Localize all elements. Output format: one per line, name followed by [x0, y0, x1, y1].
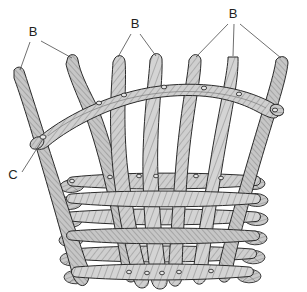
binding-node	[127, 270, 132, 274]
binding-node	[161, 85, 166, 89]
weaver-rod	[67, 191, 261, 207]
binding-node	[145, 271, 150, 275]
label-b-center: B	[131, 16, 140, 31]
binding-node	[121, 93, 126, 97]
binding-node	[219, 176, 224, 180]
label-b-left: B	[29, 24, 38, 39]
basket-diagram: B B B C	[0, 0, 307, 292]
binding-node	[154, 174, 159, 178]
binding-node	[160, 271, 165, 275]
binding-node	[272, 108, 277, 112]
binding-node	[137, 174, 142, 178]
horizontal-weavers-front	[67, 191, 261, 280]
binding-node	[209, 269, 214, 273]
label-c: C	[8, 167, 17, 182]
weaver-rod	[68, 173, 261, 189]
binding-node	[96, 101, 101, 105]
binding-node	[236, 92, 241, 96]
binding-node	[194, 174, 199, 178]
binding-node	[108, 175, 113, 179]
binding-node	[177, 270, 182, 274]
figure-container: B B B C	[0, 0, 307, 292]
weaver-rod	[67, 228, 260, 244]
binding-node	[201, 86, 206, 90]
binding-node	[70, 179, 75, 183]
binding-node-c	[40, 135, 46, 139]
label-b-right: B	[229, 6, 238, 21]
